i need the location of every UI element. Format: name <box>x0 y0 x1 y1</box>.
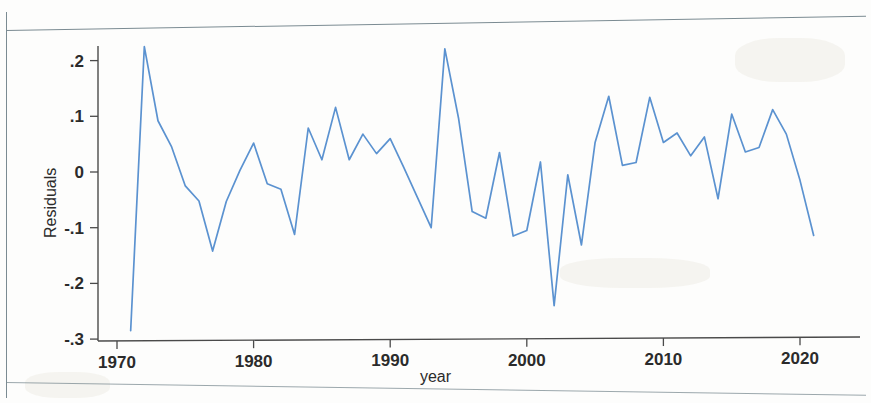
x-tick-label: 2020 <box>781 349 819 368</box>
y-tick-label: .1 <box>70 107 84 126</box>
plot-canvas: .2.10-.1-.2-.3 197019801990200020102020 <box>0 0 871 403</box>
y-axis-ticks <box>90 61 98 340</box>
y-axis-tick-labels: .2.10-.1-.2-.3 <box>64 52 84 350</box>
y-axis <box>90 46 98 341</box>
y-tick-label: -.3 <box>64 330 84 349</box>
x-axis-title: year <box>0 368 871 386</box>
scanned-page: .2.10-.1-.2-.3 197019801990200020102020 … <box>0 0 871 403</box>
y-axis-title-wrapper: Residuals <box>22 130 46 240</box>
residuals-line-chart: .2.10-.1-.2-.3 197019801990200020102020 … <box>0 0 871 403</box>
y-tick-label: -.1 <box>64 219 84 238</box>
data-series-group <box>131 47 814 331</box>
x-tick-label: 2010 <box>644 350 682 369</box>
series-line-residuals <box>131 47 814 331</box>
y-tick-label: .2 <box>70 52 84 71</box>
y-tick-label: 0 <box>75 163 84 182</box>
y-tick-label: -.2 <box>64 274 84 293</box>
x-tick-label: 2000 <box>508 351 546 370</box>
y-axis-title: Residuals <box>42 168 60 238</box>
x-axis <box>98 337 860 349</box>
